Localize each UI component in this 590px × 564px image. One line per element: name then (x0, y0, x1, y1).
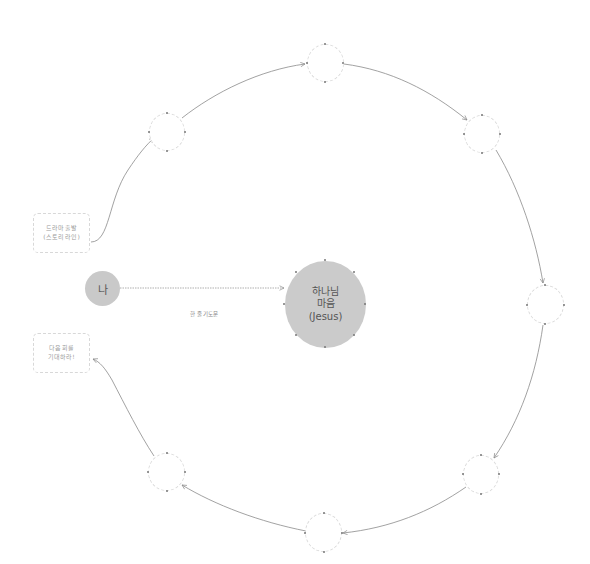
orbit-node-bottom (305, 513, 342, 552)
anchor-dot (323, 512, 325, 514)
anchor-dot (544, 323, 546, 325)
anchor-dot (341, 532, 343, 534)
anchor-dot (324, 259, 326, 261)
anchor-dot (148, 131, 150, 133)
anchor-dot (342, 62, 344, 64)
anchor-dot (463, 133, 465, 135)
arrow-upper-right-to-right (496, 150, 543, 283)
orbit-node-right (527, 285, 564, 324)
anchor-dot (166, 452, 168, 454)
arrow-bottom-to-lower-left (182, 485, 306, 531)
anchor-dot (304, 532, 306, 534)
anchor-dot (480, 493, 482, 495)
anchor-dot (184, 471, 186, 473)
anchor-dot (324, 346, 326, 348)
anchor-dot (462, 473, 464, 475)
anchor-dot (563, 304, 565, 306)
start-box-line-1: 드라마 출발 (46, 224, 78, 233)
arrow-upper-left-to-top (182, 64, 305, 118)
anchor-dot (283, 303, 285, 305)
arrow-start-to-upper-left (91, 138, 154, 242)
start-box-line-2: (스토리 라인) (43, 233, 80, 242)
anchor-dot (481, 152, 483, 154)
orbit-node-upper-right (464, 115, 500, 153)
anchor-dot (353, 271, 355, 273)
anchor-dot (306, 62, 308, 64)
orbit-node-top (307, 44, 344, 82)
anchor-dot (481, 114, 483, 116)
anchor-dot (364, 303, 366, 305)
anchor-dot (323, 551, 325, 553)
anchor-dot (147, 471, 149, 473)
anchor-dot (353, 334, 355, 336)
anchor-dot (166, 490, 168, 492)
orbit-node-lower-right (463, 455, 499, 494)
me-node: 나 (85, 271, 120, 306)
arrow-lower-right-to-bottom (343, 487, 466, 533)
end-box-line-2: 기대하라! (48, 353, 74, 362)
anchor-dot (499, 133, 501, 135)
prayer-line-label: 한 줄 기도문 (190, 310, 219, 318)
heart-line-3: (Jesus) (309, 311, 343, 324)
anchor-dot (295, 334, 297, 336)
orbit-node-lower-left (148, 453, 185, 491)
heart-line-1: 하나님 (312, 286, 339, 299)
orbit-node-upper-left (149, 113, 185, 151)
start-drama-box: 드라마 출발 (스토리 라인) (33, 213, 90, 253)
arrow-right-to-lower-right (494, 325, 543, 458)
anchor-dot (498, 473, 500, 475)
anchor-dot (295, 271, 297, 273)
anchor-dot (184, 131, 186, 133)
me-label: 나 (98, 281, 108, 297)
anchor-dot (480, 454, 482, 456)
end-box-line-1: 다음 회를 (49, 344, 75, 353)
anchor-dot (166, 112, 168, 114)
arrow-top-to-upper-right (344, 64, 467, 120)
anchor-dot (544, 284, 546, 286)
heart-line-2: 마음 (317, 298, 335, 311)
next-episode-box: 다음 회를 기대하라! (33, 333, 90, 373)
anchor-dot (166, 150, 168, 152)
anchor-dot (324, 43, 326, 45)
arrow-lower-left-to-end-box (93, 359, 154, 456)
anchor-dot (526, 304, 528, 306)
anchor-dot (324, 81, 326, 83)
